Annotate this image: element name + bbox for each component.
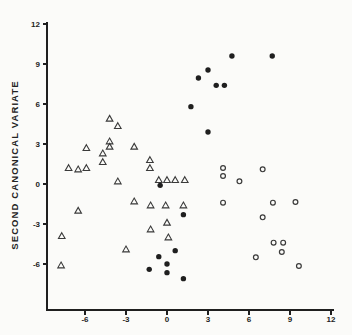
data-point-open-circle (260, 215, 265, 220)
data-point-filled-circle (164, 270, 169, 275)
y-tick-label: 3 (36, 140, 41, 149)
data-point-open-triangle (123, 246, 130, 252)
x-tick-label: 12 (327, 315, 336, 324)
data-point-open-triangle (99, 150, 106, 156)
data-point-open-triangle (181, 177, 188, 183)
x-tick-label: 9 (288, 315, 293, 324)
scatter-figure: SECOND CANONICAL VARIATE 129630-3-6-6-30… (0, 0, 352, 335)
y-tick-label: 12 (31, 20, 40, 29)
y-tick-label: -6 (33, 260, 41, 269)
data-point-filled-circle (222, 83, 227, 88)
data-point-filled-circle (173, 248, 178, 253)
data-point-open-triangle (147, 202, 154, 208)
data-point-open-triangle (162, 202, 169, 208)
data-point-open-triangle (164, 177, 171, 183)
data-point-filled-circle (205, 129, 210, 134)
data-point-filled-circle (156, 254, 161, 259)
data-point-open-circle (271, 200, 276, 205)
data-point-filled-circle (157, 183, 162, 188)
data-point-open-triangle (65, 165, 72, 171)
x-tick-label: -3 (122, 315, 130, 324)
data-point-open-triangle (75, 166, 82, 172)
data-point-filled-circle (147, 267, 152, 272)
data-point-filled-circle (214, 83, 219, 88)
data-point-open-triangle (58, 262, 65, 268)
data-point-open-triangle (172, 177, 179, 183)
data-point-open-circle (260, 167, 265, 172)
data-point-filled-circle (164, 261, 169, 266)
y-tick-label: -3 (33, 220, 41, 229)
x-tick-label: 0 (165, 315, 170, 324)
data-point-filled-circle (229, 53, 234, 58)
data-point-filled-circle (188, 104, 193, 109)
scatter-plot: 129630-3-6-6-3036912 (0, 0, 352, 335)
data-point-open-triangle (131, 143, 138, 149)
data-point-open-circle (221, 166, 226, 171)
x-tick-label: 6 (247, 315, 252, 324)
data-point-open-triangle (106, 115, 113, 121)
y-tick-label: 0 (36, 180, 41, 189)
data-point-open-triangle (114, 178, 121, 184)
y-tick-label: 6 (36, 100, 41, 109)
data-point-open-circle (296, 264, 301, 269)
data-point-open-triangle (99, 159, 106, 165)
data-point-open-triangle (147, 165, 154, 171)
data-point-open-circle (253, 255, 258, 260)
data-point-open-triangle (165, 234, 172, 240)
data-point-filled-circle (270, 53, 275, 58)
data-point-open-triangle (83, 145, 90, 151)
data-point-open-circle (271, 240, 276, 245)
data-point-open-triangle (75, 207, 82, 213)
data-point-open-triangle (58, 233, 65, 239)
data-point-open-triangle (131, 198, 138, 204)
data-point-open-triangle (180, 202, 187, 208)
data-point-open-circle (281, 240, 286, 245)
data-point-filled-circle (196, 75, 201, 80)
data-point-open-triangle (83, 165, 90, 171)
y-tick-label: 9 (36, 60, 41, 69)
data-point-open-triangle (147, 157, 154, 163)
x-tick-label: -6 (81, 315, 89, 324)
data-point-filled-circle (181, 212, 186, 217)
data-point-open-triangle (164, 219, 171, 225)
x-tick-label: 3 (206, 315, 211, 324)
data-point-open-circle (279, 250, 284, 255)
data-point-open-circle (237, 179, 242, 184)
data-point-open-triangle (114, 123, 121, 129)
data-point-filled-circle (181, 276, 186, 281)
data-point-open-circle (221, 174, 226, 179)
data-point-open-triangle (147, 226, 154, 232)
data-point-open-triangle (155, 177, 162, 183)
data-point-open-circle (221, 200, 226, 205)
data-point-open-circle (293, 200, 298, 205)
data-point-filled-circle (205, 67, 210, 72)
